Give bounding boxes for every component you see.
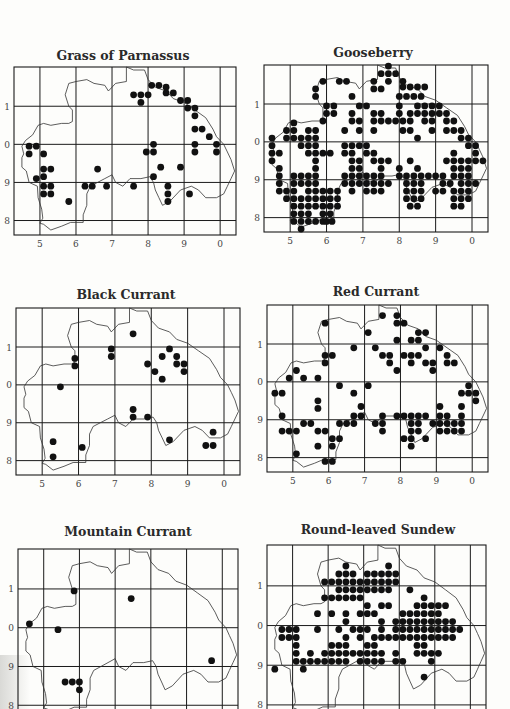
record-dot bbox=[414, 634, 421, 641]
record-dot bbox=[343, 586, 350, 593]
record-dot bbox=[40, 173, 47, 180]
record-dot bbox=[82, 183, 89, 190]
record-dot bbox=[451, 360, 458, 367]
record-dot bbox=[312, 188, 319, 195]
record-dot bbox=[472, 150, 479, 157]
record-dot bbox=[152, 368, 159, 375]
y-tick-label: 8 bbox=[4, 216, 10, 226]
record-dot bbox=[414, 642, 421, 649]
record-dot bbox=[356, 173, 363, 180]
record-dot bbox=[378, 618, 385, 625]
record-dot bbox=[210, 429, 217, 436]
record-dot bbox=[410, 173, 417, 180]
record-dot bbox=[322, 320, 329, 327]
record-dot bbox=[312, 135, 319, 142]
record-dot bbox=[329, 218, 336, 225]
y-tick-label: 1 bbox=[257, 581, 263, 591]
record-dot bbox=[418, 93, 425, 100]
record-dot bbox=[356, 142, 363, 149]
record-dot bbox=[394, 320, 401, 327]
map-frame bbox=[16, 308, 240, 475]
record-dot bbox=[108, 346, 115, 353]
record-dot bbox=[33, 143, 40, 150]
record-dot bbox=[414, 618, 421, 625]
record-dot bbox=[335, 586, 342, 593]
record-dot bbox=[314, 626, 321, 633]
record-dot bbox=[341, 150, 348, 157]
record-dot bbox=[199, 126, 206, 133]
map-round-leaved-sundew: 1098 bbox=[257, 545, 486, 709]
record-dot bbox=[440, 180, 447, 187]
record-dot bbox=[335, 571, 342, 578]
record-dot bbox=[298, 203, 305, 210]
record-dot bbox=[458, 413, 465, 420]
y-tick-label: 8 bbox=[6, 456, 12, 466]
record-dot bbox=[410, 93, 417, 100]
record-dot bbox=[379, 352, 386, 359]
record-dot bbox=[269, 157, 276, 164]
record-dot bbox=[401, 435, 408, 442]
record-dot bbox=[371, 634, 378, 641]
record-dot bbox=[349, 180, 356, 187]
record-dot bbox=[436, 103, 443, 110]
record-dot bbox=[410, 180, 417, 187]
record-dot bbox=[283, 135, 290, 142]
record-dot bbox=[392, 650, 399, 657]
record-dot bbox=[343, 78, 350, 85]
record-dot bbox=[26, 143, 33, 150]
record-dot bbox=[315, 397, 322, 404]
record-dot bbox=[392, 70, 399, 77]
record-dot bbox=[385, 579, 392, 586]
record-dot bbox=[465, 142, 472, 149]
record-dot bbox=[279, 634, 286, 641]
y-tick-label: 0 bbox=[8, 623, 14, 633]
record-dot bbox=[458, 390, 465, 397]
record-dot bbox=[349, 165, 356, 172]
record-dot bbox=[451, 420, 458, 427]
record-dot bbox=[286, 634, 293, 641]
record-dot bbox=[76, 679, 83, 686]
record-dot bbox=[298, 218, 305, 225]
record-dot bbox=[396, 103, 403, 110]
record-dot bbox=[298, 195, 305, 202]
record-dot bbox=[130, 330, 137, 337]
x-tick-label: 8 bbox=[398, 476, 404, 486]
record-dot bbox=[392, 579, 399, 586]
x-tick-label: 7 bbox=[109, 239, 115, 249]
record-dot bbox=[400, 127, 407, 134]
record-dot bbox=[350, 390, 357, 397]
record-dot bbox=[450, 173, 457, 180]
record-dot bbox=[371, 610, 378, 617]
record-dot bbox=[192, 141, 199, 148]
record-dot bbox=[173, 361, 180, 368]
record-dot bbox=[130, 91, 137, 98]
record-dot bbox=[343, 579, 350, 586]
record-dot bbox=[269, 142, 276, 149]
record-dot bbox=[356, 165, 363, 172]
record-dot bbox=[363, 173, 370, 180]
x-tick-label: 9 bbox=[185, 479, 191, 489]
record-dot bbox=[378, 579, 385, 586]
x-tick-label: 8 bbox=[148, 479, 154, 489]
record-dot bbox=[329, 443, 336, 450]
record-dot bbox=[370, 118, 377, 125]
record-dot bbox=[370, 157, 377, 164]
record-dot bbox=[429, 367, 436, 374]
record-dot bbox=[72, 363, 79, 370]
record-dot bbox=[322, 458, 329, 465]
record-dot bbox=[396, 93, 403, 100]
y-tick-label: 8 bbox=[257, 453, 263, 463]
record-dot bbox=[312, 218, 319, 225]
record-dot bbox=[356, 118, 363, 125]
record-dot bbox=[343, 610, 350, 617]
record-dot bbox=[343, 571, 350, 578]
record-dot bbox=[392, 658, 399, 665]
record-dot bbox=[276, 180, 283, 187]
record-dot bbox=[458, 157, 465, 164]
record-dot bbox=[449, 634, 456, 641]
record-dot bbox=[370, 173, 377, 180]
y-tick-label: 9 bbox=[257, 415, 263, 425]
record-dot bbox=[443, 157, 450, 164]
record-dot bbox=[363, 150, 370, 157]
record-dot bbox=[329, 352, 336, 359]
